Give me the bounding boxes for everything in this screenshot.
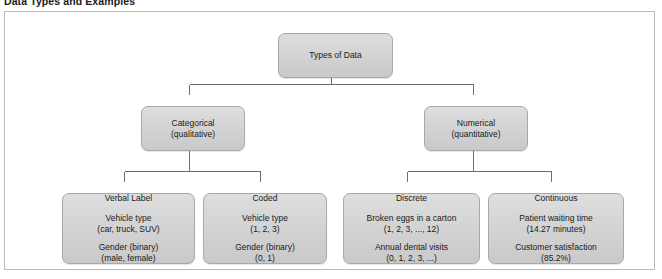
example-values: (1, 2, 3, ..., 12) xyxy=(384,224,439,235)
node-coded-title: Coded xyxy=(252,193,277,204)
node-numerical-title: Numerical xyxy=(457,118,495,129)
node-verbal-label-title: Verbal Label xyxy=(105,193,152,204)
node-numerical[interactable]: Numerical (quantitative) xyxy=(424,106,528,151)
node-types-of-data[interactable]: Types of Data xyxy=(278,33,393,78)
node-categorical-title: Categorical xyxy=(172,118,215,129)
node-coded-example-2: Gender (binary) (0, 1) xyxy=(235,242,295,264)
example-values: (85.2%) xyxy=(541,253,571,264)
example-values: (0, 1, 2, 3, ...) xyxy=(386,253,437,264)
node-discrete-title: Discrete xyxy=(396,193,427,204)
node-continuous-example-1: Patient waiting time (14.27 minutes) xyxy=(519,213,593,235)
example-name: Vehicle type xyxy=(106,213,152,224)
node-numerical-subtitle: (quantitative) xyxy=(451,129,500,140)
example-values: (1, 2, 3) xyxy=(250,224,279,235)
example-values: (14.27 minutes) xyxy=(526,224,585,235)
node-verbal-label[interactable]: Verbal Label Vehicle type (car, truck, S… xyxy=(62,193,195,264)
node-verbal-label-example-1: Vehicle type (car, truck, SUV) xyxy=(97,213,159,235)
example-values: (0, 1) xyxy=(255,253,275,264)
node-discrete-example-2: Annual dental visits (0, 1, 2, 3, ...) xyxy=(375,242,448,264)
example-name: Vehicle type xyxy=(242,213,288,224)
node-categorical-subtitle: (qualitative) xyxy=(171,129,215,140)
diagram-frame: Types of Data Categorical (qualitative) … xyxy=(4,11,655,270)
example-name: Gender (binary) xyxy=(235,242,295,253)
figure-title: Data Types and Examples xyxy=(4,0,135,7)
node-continuous-title: Continuous xyxy=(534,193,577,204)
example-values: (male, female) xyxy=(101,253,155,264)
example-name: Customer satisfaction xyxy=(515,242,597,253)
diagram-canvas: Types of Data Categorical (qualitative) … xyxy=(5,12,654,269)
node-types-of-data-label: Types of Data xyxy=(309,50,361,61)
example-name: Annual dental visits xyxy=(375,242,448,253)
node-coded[interactable]: Coded Vehicle type (1, 2, 3) Gender (bin… xyxy=(203,193,327,264)
node-categorical[interactable]: Categorical (qualitative) xyxy=(141,106,245,151)
node-discrete-example-1: Broken eggs in a carton (1, 2, 3, ..., 1… xyxy=(367,213,457,235)
node-verbal-label-example-2: Gender (binary) (male, female) xyxy=(99,242,159,264)
node-coded-example-1: Vehicle type (1, 2, 3) xyxy=(242,213,288,235)
node-discrete[interactable]: Discrete Broken eggs in a carton (1, 2, … xyxy=(343,193,480,264)
example-name: Gender (binary) xyxy=(99,242,159,253)
example-name: Broken eggs in a carton xyxy=(367,213,457,224)
node-continuous[interactable]: Continuous Patient waiting time (14.27 m… xyxy=(488,193,624,264)
example-values: (car, truck, SUV) xyxy=(97,224,159,235)
example-name: Patient waiting time xyxy=(519,213,593,224)
node-continuous-example-2: Customer satisfaction (85.2%) xyxy=(515,242,597,264)
